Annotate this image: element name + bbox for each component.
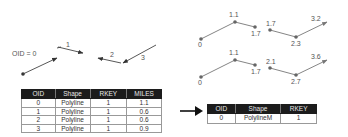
cell: Polyline [55, 99, 90, 108]
cell: PolylineM [235, 114, 281, 124]
column-header-oid: OID [208, 105, 236, 114]
table-row: 1 Polyline 1 0.6 [22, 107, 162, 116]
measure-label: 1.7 [251, 68, 261, 75]
route-top: 0 1.1 1.7 1.7 2.3 3.2 [198, 11, 327, 48]
cell: 0.6 [127, 116, 162, 125]
segment-0 [23, 58, 57, 74]
cell: 1 [90, 99, 127, 108]
table-header-row: OID Shape RKEY MILES [22, 90, 162, 99]
column-header-miles: MILES [127, 90, 162, 99]
measure-label: 0 [198, 79, 202, 86]
cell: 3 [22, 124, 56, 133]
segment-label-1: 1 [66, 41, 70, 48]
table-row: 2 Polyline 1 0.6 [22, 116, 162, 125]
cell: 1.1 [127, 99, 162, 108]
column-header-oid: OID [22, 90, 56, 99]
output-table: OID Shape RKEY 0 PolylineM 1 [207, 104, 317, 124]
measure-label: 2.7 [291, 78, 301, 85]
left-polylines: OID = 0 1 2 3 [12, 41, 156, 76]
cell: Polyline [55, 107, 90, 116]
table-header-row: OID Shape RKEY [208, 105, 317, 114]
column-header-rkey: RKEY [90, 90, 127, 99]
segment-3 [123, 45, 156, 63]
table-row: 0 PolylineM 1 [208, 114, 317, 124]
column-header-shape: Shape [235, 105, 281, 114]
cell: 2 [22, 116, 56, 125]
measure-label: 1.1 [229, 49, 239, 56]
oid-label: OID = 0 [12, 50, 36, 57]
cell: 0 [22, 99, 56, 108]
measure-label: 0 [198, 41, 202, 48]
cell: 1 [281, 114, 317, 124]
measure-label: 3.2 [311, 15, 321, 22]
input-table: OID Shape RKEY MILES 0 Polyline 1 1.1 1 … [21, 89, 162, 133]
measure-label: 2.1 [266, 58, 276, 65]
column-header-rkey: RKEY [281, 105, 317, 114]
measure-label: 2.3 [291, 40, 301, 47]
cell: 0.6 [127, 107, 162, 116]
cell: 1 [90, 107, 127, 116]
cell: 1 [22, 107, 56, 116]
table-row: 0 Polyline 1 1.1 [22, 99, 162, 108]
route-bottom: 0 1.1 1.7 2.1 2.7 3.6 [198, 49, 327, 86]
segment-label-2: 2 [110, 51, 114, 58]
transform-arrow-icon [180, 106, 203, 116]
table-row: 3 Polyline 1 0.9 [22, 124, 162, 133]
cell: 1 [90, 116, 127, 125]
segment-label-3: 3 [141, 54, 145, 61]
measure-label: 1.7 [266, 20, 276, 27]
column-header-shape: Shape [55, 90, 90, 99]
segment-2 [98, 58, 121, 63]
measure-label: 1.7 [251, 30, 261, 37]
cell: 0.9 [127, 124, 162, 133]
segment-1 [58, 47, 83, 53]
cell: Polyline [55, 116, 90, 125]
measure-label: 1.1 [229, 11, 239, 18]
cell: Polyline [55, 124, 90, 133]
cell: 1 [90, 124, 127, 133]
cell: 0 [208, 114, 236, 124]
measure-label: 3.6 [311, 53, 321, 60]
